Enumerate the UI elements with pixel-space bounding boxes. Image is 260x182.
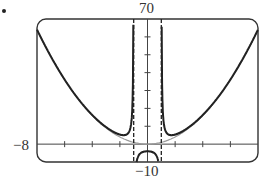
graph-plot bbox=[0, 0, 260, 182]
